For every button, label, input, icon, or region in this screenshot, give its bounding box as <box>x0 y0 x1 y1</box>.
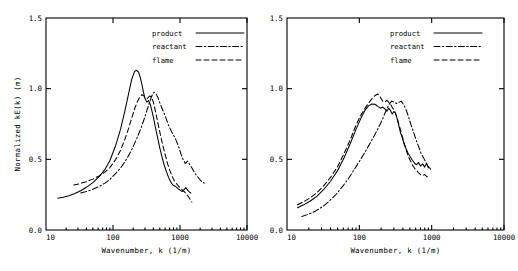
y-tick-label: 1.5 <box>270 14 283 23</box>
chart-panel-right: 101001000100000.00.51.01.5Wavenumber, k … <box>259 0 518 271</box>
x-tick-label: 100 <box>106 233 119 242</box>
x-tick-label: 10000 <box>493 233 515 242</box>
y-tick-label: 1.0 <box>270 84 283 93</box>
legend-label-product: product <box>152 29 182 38</box>
y-axis-title: Normalized kE(k) (m) <box>13 77 22 172</box>
legend-label-reactant: reactant <box>152 42 187 51</box>
y-tick-label: 1.5 <box>29 14 42 23</box>
legend-label-reactant: reactant <box>390 42 425 51</box>
x-tick-label: 1000 <box>171 233 189 242</box>
figure-container: 101001000100000.00.51.01.5Wavenumber, k … <box>0 0 518 271</box>
series-line-reactant <box>81 92 205 193</box>
y-tick-label: 1.0 <box>29 84 42 93</box>
x-tick-label: 10000 <box>236 233 258 242</box>
y-tick-label: 0.5 <box>270 155 283 164</box>
x-tick-label: 100 <box>353 233 366 242</box>
plot-frame <box>46 18 247 230</box>
x-axis-title: Wavenumber, k (1/m) <box>101 246 191 255</box>
x-axis-title: Wavenumber, k (1/m) <box>350 246 440 255</box>
legend-label-flame: flame <box>390 56 412 65</box>
x-tick-label: 1000 <box>423 233 441 242</box>
legend-label-product: product <box>390 29 420 38</box>
y-tick-label: 0.5 <box>29 155 42 164</box>
series-line-product <box>58 70 191 198</box>
series-line-flame <box>298 94 429 205</box>
x-tick-label: 10 <box>287 233 296 242</box>
y-tick-label: 0.0 <box>29 226 42 235</box>
x-tick-label: 10 <box>46 233 55 242</box>
legend-label-flame: flame <box>152 56 174 65</box>
chart-panel-left: 101001000100000.00.51.01.5Wavenumber, k … <box>0 0 259 271</box>
y-tick-label: 0.0 <box>270 226 283 235</box>
